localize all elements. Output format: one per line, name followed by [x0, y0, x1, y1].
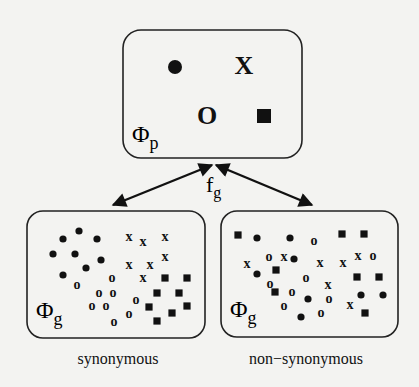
x-symbol: X [235, 51, 254, 80]
square-symbol [338, 230, 345, 237]
o-symbol: o [267, 276, 274, 291]
phi-g-label-synonymous: Φg [36, 297, 63, 329]
square-symbol [168, 309, 175, 316]
dot-symbol [59, 235, 66, 242]
caption-non-synonymous: non−synonymous [249, 350, 363, 368]
dot-symbol [49, 250, 56, 257]
square-symbol [183, 274, 190, 281]
dot-symbol [290, 255, 297, 262]
x-symbol: x [244, 256, 251, 271]
o-symbol: o [110, 285, 117, 300]
dot-symbol [379, 291, 386, 298]
square-symbol [360, 230, 367, 237]
x-symbol: x [140, 234, 147, 249]
o-symbol: o [303, 270, 310, 285]
x-symbol: x [347, 297, 354, 312]
caption-synonymous: synonymous [78, 350, 159, 368]
square-symbol [183, 302, 190, 309]
x-symbol: x [162, 229, 169, 244]
x-symbol: x [355, 248, 362, 263]
o-symbol: o [133, 292, 140, 307]
square-symbol [271, 288, 278, 295]
o-symbol: o [126, 306, 133, 321]
square-symbol [153, 289, 160, 296]
dot-symbol [286, 234, 293, 241]
genotype-symbols-non-synonymous: ooxxxxxooooxooox [234, 230, 386, 320]
square-symbol [161, 274, 168, 281]
x-symbol: x [140, 270, 147, 285]
o-symbol: o [326, 291, 333, 306]
o-symbol: o [370, 248, 377, 263]
o-symbol: o [89, 298, 96, 313]
x-symbol: x [317, 255, 324, 270]
dot-symbol [71, 250, 78, 257]
dot-symbol [253, 270, 260, 277]
x-symbol: x [126, 229, 133, 244]
square-symbol [153, 317, 160, 324]
genotype-space-synonymous: xxxxxxxooooooooo Φg [27, 211, 205, 338]
square-symbol [257, 109, 271, 123]
o-symbol: o [289, 284, 296, 299]
square-symbol [145, 303, 152, 310]
dot-symbol [168, 60, 182, 74]
square-symbol [272, 266, 279, 273]
dot-symbol [304, 295, 311, 302]
x-symbol: x [147, 257, 154, 272]
phi-p-label: Φp [132, 121, 159, 153]
o-symbol: o [318, 305, 325, 320]
dot-symbol [75, 227, 82, 234]
x-symbol: x [281, 249, 288, 264]
phenotype-space-box: XO Φp [123, 30, 302, 158]
phenotype-symbols: XO [168, 51, 271, 130]
dot-symbol [97, 256, 104, 263]
x-symbol: x [126, 257, 133, 272]
square-symbol [353, 273, 360, 280]
square-symbol [361, 309, 368, 316]
o-symbol: o [96, 285, 103, 300]
dot-symbol [93, 235, 100, 242]
x-symbol: x [340, 255, 347, 270]
o-symbol: o [109, 270, 116, 285]
genotype-symbols-synonymous: xxxxxxxooooooooo [49, 227, 190, 328]
phi-g-label-non-synonymous: Φg [230, 296, 257, 328]
o-symbol: O [197, 101, 217, 130]
o-symbol: o [266, 249, 273, 264]
genotype-space-non-synonymous: ooxxxxxooooxooox Φg [221, 211, 398, 337]
dot-symbol [253, 234, 260, 241]
dot-symbol [59, 271, 66, 278]
dot-symbol [357, 291, 364, 298]
square-symbol [375, 273, 382, 280]
square-symbol [175, 289, 182, 296]
double-arrow-icon [113, 165, 212, 205]
genotype-phenotype-diagram: XO Φp fg xxxxxxxooooooooo Φg ooxxxxxoooo… [0, 0, 419, 387]
dot-symbol [297, 313, 304, 320]
x-symbol: x [162, 249, 169, 264]
o-symbol: o [281, 298, 288, 313]
o-symbol: o [74, 277, 81, 292]
o-symbol: o [103, 298, 110, 313]
double-arrow-icon [216, 165, 312, 205]
diagram-canvas: XO Φp fg xxxxxxxooooooooo Φg ooxxxxxoooo… [0, 0, 419, 387]
square-symbol [234, 231, 241, 238]
x-symbol: x [325, 277, 332, 292]
o-symbol: o [111, 314, 118, 329]
o-symbol: o [311, 233, 318, 248]
mapping-fg-label: fg [206, 172, 221, 202]
dot-symbol [82, 264, 89, 271]
